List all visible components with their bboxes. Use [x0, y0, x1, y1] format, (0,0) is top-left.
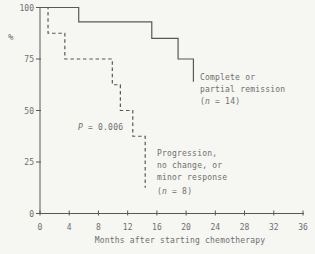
kaplan-meier-figure: 04812162024283236 0255075100 % Months af…: [0, 0, 315, 254]
kaplan-meier-chart: 04812162024283236 0255075100 % Months af…: [0, 0, 315, 254]
x-tick-label: 8: [96, 223, 101, 232]
p-value-annotation: P = 0.006: [78, 123, 123, 132]
y-tick-label: 100: [20, 4, 35, 13]
x-tick-label: 4: [67, 223, 72, 232]
y-axis-ticks: 0255075100: [20, 4, 41, 219]
progression-curve-dashed: [40, 8, 145, 188]
y-tick-label: 75: [24, 55, 34, 64]
y-tick-label: 0: [29, 210, 34, 219]
legend-remission-line2: partial remission: [200, 85, 285, 94]
legend-progression-line3: minor response: [157, 173, 227, 182]
x-tick-label: 24: [211, 223, 221, 232]
legend-progression-count: (n = 8): [157, 187, 192, 196]
x-tick-label: 32: [269, 223, 279, 232]
y-tick-label: 25: [24, 158, 34, 167]
x-tick-label: 20: [181, 223, 191, 232]
p-value-number: = 0.006: [83, 123, 123, 132]
legend-remission: Complete or partial remission (n = 14): [200, 73, 285, 106]
legend-progression: Progression, no change, or minor respons…: [157, 149, 227, 196]
x-tick-label: 12: [123, 223, 133, 232]
legend-remission-line1: Complete or: [200, 73, 255, 82]
x-tick-label: 0: [38, 223, 43, 232]
legend-progression-line1: Progression,: [157, 149, 217, 158]
x-tick-label: 36: [298, 223, 308, 232]
x-axis-label: Months after starting chemotherapy: [95, 236, 266, 245]
x-tick-label: 16: [152, 223, 162, 232]
legend-progression-line2: no change, or: [157, 161, 222, 170]
remission-curve-solid: [40, 8, 193, 82]
y-axis-label: %: [8, 32, 14, 42]
legend-remission-count: (n = 14): [200, 97, 240, 106]
x-tick-label: 28: [240, 223, 250, 232]
y-tick-label: 50: [24, 107, 34, 116]
